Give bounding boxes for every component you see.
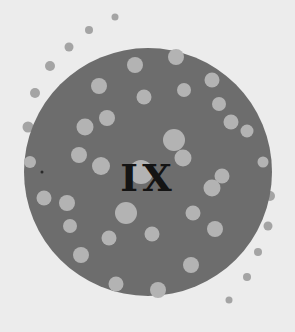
emblem-graphic: IX	[0, 0, 295, 332]
emblem-label: IX	[120, 155, 175, 200]
emblem-canvas: IX	[0, 0, 295, 332]
